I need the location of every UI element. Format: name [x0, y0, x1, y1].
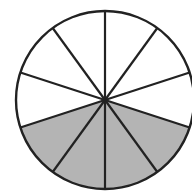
fraction-circle — [0, 0, 192, 193]
